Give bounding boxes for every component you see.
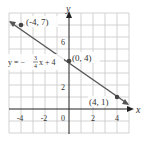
point-neg4-7	[19, 23, 24, 28]
point-4-1	[115, 95, 120, 100]
svg-text:2: 2	[91, 114, 95, 123]
svg-text:2: 2	[61, 83, 65, 92]
y-axis-label: y	[65, 3, 71, 14]
svg-text:y = −: y = −	[8, 58, 26, 67]
svg-text:4: 4	[115, 114, 119, 123]
plot-area: x y -4 -2 0 2 4 2 6 (-4, 7) (0, 4) (4, 1…	[0, 0, 151, 144]
x-axis-label: x	[135, 104, 141, 115]
svg-text:-2: -2	[41, 114, 48, 123]
svg-text:-4: -4	[17, 114, 24, 123]
x-axis-arrow-icon	[127, 106, 134, 112]
axes	[9, 14, 130, 134]
point-label-0-4: (0, 4)	[72, 53, 92, 63]
svg-text:3: 3	[34, 55, 37, 61]
svg-text:0: 0	[61, 114, 65, 123]
chart: x y -4 -2 0 2 4 2 6 (-4, 7) (0, 4) (4, 1…	[0, 0, 151, 144]
point-label-4-1: (4, 1)	[89, 97, 109, 107]
svg-text:x + 4: x + 4	[39, 58, 56, 67]
x-tick-labels: -4 -2 0 2 4	[17, 114, 119, 123]
point-label-neg4-7: (-4, 7)	[26, 17, 49, 27]
svg-text:6: 6	[61, 38, 65, 47]
svg-text:4: 4	[34, 63, 37, 69]
point-0-4	[67, 59, 72, 64]
